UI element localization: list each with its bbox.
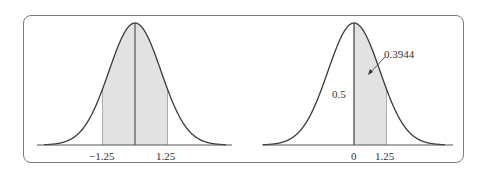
left-normal-curve xyxy=(37,23,232,145)
tick-label-0: 0 xyxy=(351,150,357,162)
area-label-0-3944: 0.3944 xyxy=(384,48,414,60)
normal-curves-graphic xyxy=(0,0,487,178)
right-normal-curve xyxy=(262,23,453,145)
tick-label-neg-1-25: −1.25 xyxy=(89,150,114,162)
tick-label-1-25-left: 1.25 xyxy=(156,150,175,162)
tick-label-1-25-right: 1.25 xyxy=(375,150,394,162)
area-label-0-5: 0.5 xyxy=(332,88,346,100)
